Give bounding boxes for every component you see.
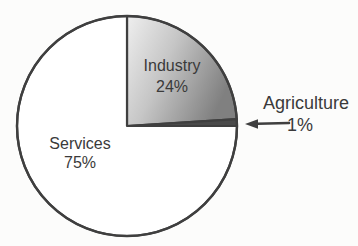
- agriculture-percent-text: 1%: [287, 114, 313, 136]
- agriculture-slice-label: Agriculture: [263, 92, 349, 114]
- services-slice-label: Services 75%: [49, 134, 110, 172]
- services-label-text: Services: [49, 134, 110, 153]
- industry-label-text: Industry: [144, 55, 201, 76]
- industry-percent-text: 24%: [144, 76, 201, 97]
- agriculture-percent-label: 1%: [287, 114, 313, 136]
- agriculture-arrow-icon: [245, 119, 289, 129]
- industry-slice-label: Industry 24%: [144, 55, 201, 97]
- pie-chart-figure: Industry 24% Services 75% Agriculture 1%: [0, 0, 358, 246]
- services-percent-text: 75%: [49, 153, 110, 172]
- agriculture-label-text: Agriculture: [263, 92, 349, 114]
